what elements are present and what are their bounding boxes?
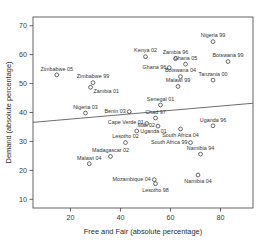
data-point bbox=[184, 62, 188, 66]
y-tick-label: 40 bbox=[19, 108, 27, 117]
data-point bbox=[196, 173, 200, 177]
data-point bbox=[154, 116, 158, 120]
y-axis-title: Demand (absolute percentage) bbox=[4, 62, 13, 164]
x-tick-label: 20 bbox=[67, 213, 75, 222]
data-point bbox=[91, 81, 95, 85]
plot-canvas: 1020304050607020406080 Zimbabwe 05Zimbab… bbox=[0, 0, 261, 249]
data-point-label: Lesotho 98 bbox=[142, 187, 169, 193]
data-point bbox=[144, 55, 148, 59]
data-point bbox=[176, 85, 180, 89]
x-tick-label: 40 bbox=[117, 213, 125, 222]
data-point-label: Mozambique 04 bbox=[112, 176, 150, 182]
y-tick-label: 20 bbox=[19, 166, 27, 175]
data-point-label: South Africa 04 bbox=[162, 132, 199, 138]
data-point bbox=[211, 78, 215, 82]
data-point bbox=[124, 141, 128, 145]
data-point-label: Zambia 01 bbox=[94, 88, 119, 94]
data-point bbox=[109, 155, 113, 159]
data-point-label: Uganda 96 bbox=[200, 117, 226, 123]
data-point-label: Madagascar 02 bbox=[92, 147, 129, 153]
data-point bbox=[226, 60, 230, 64]
data-point-label: Ghana 96 bbox=[143, 64, 167, 70]
y-tick-label: 60 bbox=[19, 50, 27, 59]
x-axis-title: Free and Fair (absolute percentage) bbox=[84, 227, 202, 236]
data-point bbox=[87, 162, 91, 166]
data-point bbox=[211, 40, 215, 44]
data-point-label: Chad 97 bbox=[145, 109, 165, 115]
data-point bbox=[159, 103, 163, 107]
data-point bbox=[55, 73, 59, 77]
data-point-label: Lesotho 02 bbox=[112, 133, 139, 139]
data-point-label: Tanzania 00 bbox=[198, 71, 227, 77]
data-point-label: Benin 03 bbox=[104, 108, 125, 114]
data-point-label: Kenya 02 bbox=[134, 47, 157, 53]
data-point-label: Nigeria 03 bbox=[73, 104, 98, 110]
data-point-label: Zimbabwe 05 bbox=[41, 66, 73, 72]
y-tick-label: 10 bbox=[19, 195, 27, 204]
data-point bbox=[135, 129, 139, 133]
y-tick-label: 30 bbox=[19, 137, 27, 146]
data-point bbox=[127, 110, 131, 114]
data-point bbox=[152, 178, 156, 182]
data-point-label: Namibia 94 bbox=[187, 145, 214, 151]
data-point-label: Namibia 04 bbox=[184, 178, 211, 184]
scatter-plot-figure: 1020304050607020406080 Zimbabwe 05Zimbab… bbox=[0, 0, 261, 249]
data-point bbox=[211, 124, 215, 128]
data-point-label: Nigeria 99 bbox=[201, 32, 226, 38]
data-point-label: Senegal 01 bbox=[147, 96, 174, 102]
x-tick-label: 80 bbox=[217, 213, 225, 222]
y-tick-label: 70 bbox=[19, 21, 27, 30]
data-point bbox=[189, 141, 193, 145]
data-point bbox=[154, 182, 158, 186]
x-tick-label: 60 bbox=[167, 213, 175, 222]
data-point bbox=[84, 111, 88, 115]
data-point-label: Botswana 04 bbox=[165, 67, 196, 73]
data-point-label: Malawi 99 bbox=[166, 77, 190, 83]
data-point-label: Botswana 99 bbox=[212, 52, 243, 58]
data-point bbox=[199, 152, 203, 156]
y-tick-label: 50 bbox=[19, 79, 27, 88]
data-point-label: Zimbabwe 99 bbox=[77, 73, 109, 79]
data-point-label: South Africa 99 bbox=[151, 139, 188, 145]
data-point-label: Ghana 05 bbox=[174, 55, 198, 61]
data-point bbox=[179, 127, 183, 131]
data-point bbox=[89, 85, 93, 89]
data-point-label: Malawi 04 bbox=[77, 155, 101, 161]
